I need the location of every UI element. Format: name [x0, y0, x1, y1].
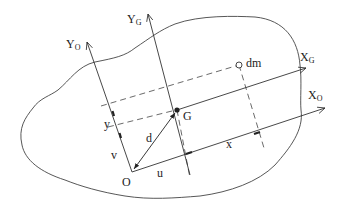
y-origin-label: YO: [66, 37, 81, 52]
d-vector: [134, 113, 175, 169]
y-origin-axis: [87, 42, 132, 172]
tick-u: [186, 152, 192, 154]
d-label: d: [146, 131, 152, 145]
tick-v: [120, 133, 122, 138]
y-centroid-label: YG: [127, 12, 142, 27]
rigid-body-diagram: YO YG XG XO O G dm u v d x y: [0, 0, 338, 214]
x-centroid-axis: [177, 68, 306, 110]
mass-element-point: [236, 62, 242, 68]
tick-x-end: [254, 132, 260, 134]
centroid-label: G: [183, 109, 192, 123]
u-label: u: [157, 166, 163, 180]
v-label: v: [111, 148, 117, 162]
x-origin-label: XO: [308, 88, 323, 103]
centroid-point: [174, 107, 179, 112]
mass-element-label: dm: [246, 56, 262, 70]
origin-label: O: [122, 175, 131, 189]
x-centroid-label: XG: [300, 50, 315, 65]
y-label: y: [104, 117, 110, 131]
y-centroid-axis: [148, 14, 190, 175]
tick-y: [113, 111, 115, 116]
x-label: x: [226, 137, 232, 151]
